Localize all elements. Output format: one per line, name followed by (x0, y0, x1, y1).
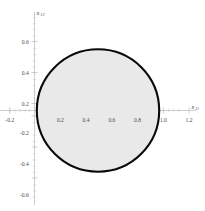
y-tick-label-0-4: 0.4 (22, 70, 29, 76)
y-tick-label-neg-0-4: -0.4 (20, 161, 29, 167)
y-axis-label-base: x (36, 9, 40, 16)
x-tick-label-0-2: 0.2 (57, 117, 64, 123)
y-tick-labels: 0.6 0.4 0.2 -0.2 -0.4 -0.6 (20, 39, 29, 198)
y-tick-label-0-2: 0.2 (22, 101, 29, 107)
plot-figure: -0.2 0.2 0.4 0.6 0.8 1.0 1.2 0.6 0.4 0.2… (0, 0, 205, 211)
x-tick-label-0-8: 0.8 (134, 117, 141, 123)
x-tick-label-0-6: 0.6 (108, 117, 115, 123)
plot-canvas: -0.2 0.2 0.4 0.6 0.8 1.0 1.2 0.6 0.4 0.2… (0, 0, 205, 211)
x-tick-label-1-0: 1.0 (160, 117, 167, 123)
x-axis-label: x 11 (191, 103, 200, 112)
x-tick-label-1-2: 1.2 (186, 117, 193, 123)
y-axis-label-subscript: 12 (40, 12, 44, 17)
disk-shape (37, 49, 159, 171)
y-tick-label-0-6: 0.6 (22, 39, 29, 45)
x-tick-label-neg-0-2: -0.2 (5, 117, 14, 123)
x-axis-label-subscript: 11 (195, 106, 199, 111)
y-tick-label-neg-0-2: -0.2 (20, 130, 29, 136)
x-tick-label-0-4: 0.4 (83, 117, 90, 123)
x-axis-label-base: x (191, 103, 195, 110)
y-tick-label-neg-0-6: -0.6 (20, 192, 29, 198)
y-axis-label: x 12 (36, 9, 45, 18)
